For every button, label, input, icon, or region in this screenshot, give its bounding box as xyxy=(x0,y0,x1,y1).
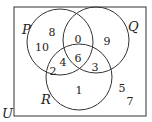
region-value: 8 xyxy=(49,26,56,39)
region-value: 7 xyxy=(127,95,134,108)
region-value: 1 xyxy=(76,84,83,97)
universe-label: U xyxy=(2,106,14,121)
region-value: 5 xyxy=(119,82,126,95)
region-value: 3 xyxy=(92,61,99,74)
region-value: 6 xyxy=(75,52,82,65)
set-label-q: Q xyxy=(128,19,139,34)
set-label-p: P xyxy=(21,22,31,37)
venn-diagram: PQR810092463157 U xyxy=(0,0,152,122)
region-value: 2 xyxy=(50,65,57,78)
region-value: 4 xyxy=(60,56,67,69)
set-label-r: R xyxy=(40,92,51,107)
region-value: 9 xyxy=(104,35,111,48)
region-value: 0 xyxy=(75,33,82,46)
region-value: 10 xyxy=(35,41,49,54)
